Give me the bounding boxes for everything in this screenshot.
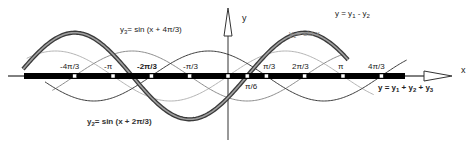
- y-axis-arrow-icon: [224, 8, 232, 36]
- label-y1: y1= sin x: [289, 30, 320, 39]
- label-sum-a: y = y: [378, 83, 396, 92]
- tick-label-pi: π: [338, 63, 344, 71]
- label-y3-rest: = sin (x + 4π/3): [127, 25, 181, 34]
- tick-label-pi-3: π/3: [263, 63, 275, 71]
- label-diff-b: - y: [355, 9, 366, 18]
- tick-marker: [264, 74, 268, 78]
- label-y2: y2= sin (x + 2π/3): [87, 118, 152, 127]
- tick-marker: [188, 74, 192, 78]
- label-diff-a: y = y: [335, 9, 352, 18]
- sum-line-y1-plus-y2-plus-y3: [24, 73, 405, 79]
- tick-label-minus-pi-3: -π/3: [183, 63, 198, 71]
- label-y2-rest: = sin (x + 2π/3): [95, 117, 152, 126]
- tick-marker: [341, 74, 345, 78]
- label-y-sum: y = y1 + y2 + y3: [378, 84, 433, 93]
- label-y-diff: y = y1 - y2: [335, 10, 370, 19]
- tick-marker: [111, 74, 115, 78]
- tick-label-minus-2pi-3: -2π/3: [137, 63, 157, 71]
- tick-label-4pi-3: 4π/3: [368, 63, 385, 71]
- label-diff-s2: 2: [367, 13, 370, 19]
- x-axis-label: x: [461, 66, 466, 75]
- tick-marker: [303, 74, 307, 78]
- label-sum-c: + y: [416, 83, 430, 92]
- tick-label-2pi-3: 2π/3: [292, 63, 309, 71]
- y-axis-label: y: [242, 14, 247, 23]
- label-y1-rest: = sin x: [296, 29, 319, 38]
- label-sum-s3: 3: [430, 87, 433, 93]
- tick-label-minus-4pi-3: -4π/3: [60, 63, 79, 71]
- tick-marker: [379, 74, 383, 78]
- plot-canvas: [0, 0, 476, 149]
- label-y3: y3= sin (x + 4π/3): [120, 26, 182, 35]
- x-axis-arrow-icon: [424, 71, 452, 81]
- tick-marker: [245, 74, 249, 78]
- tick-label-minus-pi: -π: [104, 63, 112, 71]
- tick-marker: [73, 74, 77, 78]
- sine-sum-diagram: y x y3= sin (x + 4π/3) y1= sin x y = y1 …: [0, 0, 476, 149]
- tick-marker: [226, 74, 230, 78]
- tick-marker: [149, 74, 153, 78]
- label-sum-b: + y: [399, 83, 413, 92]
- tick-label-pi-6: π/6: [245, 83, 257, 91]
